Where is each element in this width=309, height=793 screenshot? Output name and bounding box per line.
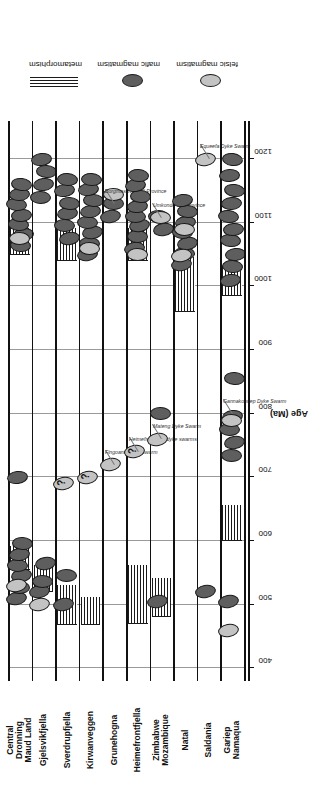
mafic-magmatism-marker — [221, 448, 242, 461]
annotation-label: Mateng Dyke Swarm — [153, 423, 201, 429]
felsic-magmatism-marker — [174, 223, 195, 236]
axis-tick-1000 — [249, 285, 254, 286]
axis-tick-label-600: 600 — [259, 529, 272, 538]
figure-canvas: CentralDronningMaud LandGjelsvikfjellaSv… — [0, 0, 272, 793]
mafic-magmatism-marker — [223, 222, 245, 237]
felsic-magmatism-marker — [79, 242, 100, 255]
row-label-gariep-namaqua: GariepNamaqua — [223, 687, 241, 793]
axis-tick-700 — [249, 476, 254, 477]
metamorphism-band — [81, 597, 101, 625]
felsic-magmatism-marker — [221, 413, 242, 426]
axis-tick-1100 — [249, 222, 254, 223]
axis-tick-label-500: 500 — [259, 593, 272, 602]
row-label-kirwanveggen: Kirwanveggen — [86, 687, 95, 793]
mafic-magmatism-marker — [6, 470, 28, 485]
mafic-magmatism-marker — [128, 168, 150, 182]
uncertain-age-question-mark: ? — [80, 473, 91, 479]
axis-tick-1200 — [249, 158, 254, 159]
mafic-magmatism-marker — [56, 569, 77, 582]
mafic-magmatism-marker — [223, 434, 246, 450]
row-label-heimefrontfjella: Heimefrontfjella — [133, 687, 142, 793]
axis-tick-label-1200: 1200 — [254, 147, 272, 156]
uncertain-age-question-mark: ? — [56, 480, 67, 486]
row-label-natal: Natal — [181, 687, 190, 793]
metamorphism-band — [128, 565, 148, 623]
axis-tick-500 — [249, 604, 254, 605]
mafic-magmatism-marker — [223, 183, 245, 198]
axis-tick-900 — [249, 349, 254, 350]
axis-tick-400 — [249, 667, 254, 668]
mafic-magmatism-marker — [150, 407, 171, 420]
row-label-gjelsvikfjella: Gjelsvikfjella — [39, 687, 48, 793]
row-separator — [244, 121, 246, 681]
row-label-grunehogna: Grunehogna — [110, 687, 119, 793]
row-label-saldania: Saldania — [204, 687, 213, 793]
legend-label-mafic: mafic magmatism — [97, 60, 160, 69]
mafic-magmatism-marker — [221, 197, 243, 211]
x-axis-line — [248, 121, 250, 681]
axis-tick-800 — [249, 413, 254, 414]
age-chart-plot: CentralDronningMaud LandGjelsvikfjellaSv… — [0, 0, 272, 793]
mafic-magmatism-marker — [30, 191, 51, 205]
mafic-magmatism-marker — [34, 555, 57, 571]
row-label-sverdrupfjella: Sverdrupfjella — [63, 687, 72, 793]
axis-tick-label-900: 900 — [259, 338, 272, 347]
axis-tick-label-1100: 1100 — [255, 211, 272, 220]
axis-tick-label-700: 700 — [259, 465, 272, 474]
axis-tick-label-1000: 1000 — [254, 274, 272, 283]
row-label-zimbabwe-mozambique: ZimbabweMozambique — [152, 687, 170, 793]
legend-swatch-mafic — [122, 74, 143, 87]
legend-swatch-felsic — [200, 74, 221, 87]
axis-title: Age (Ma) — [270, 409, 272, 419]
axis-tick-600 — [249, 540, 254, 541]
legend-label-metamorphism: metamorphism — [29, 60, 82, 69]
axis-tick-label-400: 400 — [259, 656, 272, 665]
mafic-magmatism-marker — [35, 165, 57, 179]
legend-label-felsic: felsic magmatism — [176, 60, 238, 69]
legend-swatch-metamorphism — [30, 76, 78, 87]
row-label-central-dronning-maud-land: CentralDronningMaud Land — [6, 687, 33, 793]
mafic-magmatism-marker — [32, 177, 55, 193]
metamorphism-band — [222, 505, 242, 541]
annotation-label: Equeefa Dyke Swarm — [200, 143, 250, 149]
felsic-magmatism-marker — [126, 248, 147, 261]
mafic-magmatism-marker — [219, 168, 241, 182]
mafic-magmatism-marker — [224, 372, 246, 386]
mafic-magmatism-marker — [221, 151, 244, 167]
